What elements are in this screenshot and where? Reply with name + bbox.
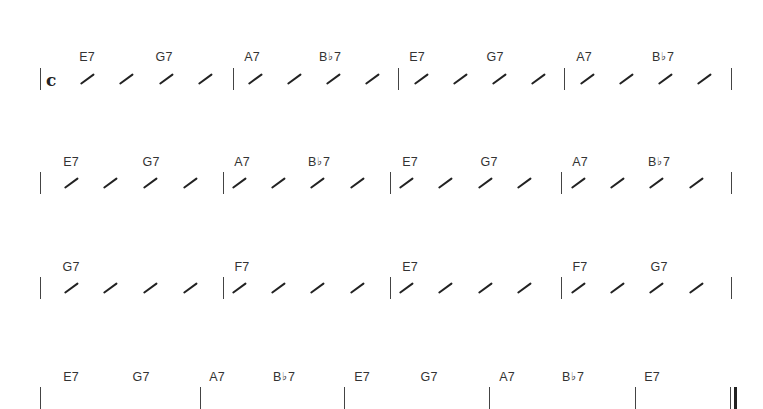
barline: [731, 277, 732, 299]
chord-root: E: [644, 370, 653, 384]
barline: [731, 172, 732, 194]
barline: [40, 68, 41, 90]
chord-quality: 7: [334, 50, 341, 64]
chord-root: A: [576, 50, 585, 64]
chord-root: A: [244, 50, 253, 64]
chord-symbol: G7: [486, 50, 503, 64]
slash-beat-icon: [365, 73, 380, 85]
chord-symbol: B♭7: [652, 50, 674, 64]
chord-quality: 7: [411, 155, 418, 169]
chord-root: B: [652, 50, 661, 64]
chord-symbol: B♭7: [273, 370, 295, 384]
chord-quality: 7: [508, 370, 515, 384]
flat-accidental: ♭: [661, 50, 666, 63]
chord-symbol: G7: [650, 260, 667, 274]
slash-beat-icon: [119, 73, 134, 85]
chord-symbol: F7: [235, 260, 250, 274]
slash-beat-icon: [517, 177, 532, 189]
chord-quality: 7: [663, 155, 670, 169]
chord-root: E: [402, 260, 411, 274]
slash-beat-icon: [232, 282, 247, 294]
slash-beat-icon: [310, 282, 325, 294]
chord-quality: 7: [142, 370, 149, 384]
flat-accidental: ♭: [282, 370, 287, 383]
final-barline-thick: [734, 387, 737, 409]
slash-beat-icon: [159, 73, 174, 85]
slash-beat-icon: [287, 73, 302, 85]
slash-beat-icon: [399, 177, 414, 189]
slash-beat-icon: [571, 177, 586, 189]
slash-beat-icon: [619, 73, 634, 85]
slash-beat-icon: [326, 73, 341, 85]
chord-root: F: [235, 260, 243, 274]
barline: [561, 172, 562, 194]
slash-beat-icon: [183, 177, 198, 189]
chord-quality: 7: [667, 50, 674, 64]
chord-quality: 7: [418, 50, 425, 64]
barline: [344, 387, 345, 409]
chord-symbol: E7: [409, 50, 425, 64]
chord-quality: 7: [243, 155, 250, 169]
chord-root: G: [62, 260, 72, 274]
slash-beat-icon: [350, 177, 365, 189]
chord-quality: 7: [152, 155, 159, 169]
chord-symbol: G7: [142, 155, 159, 169]
chord-quality: 7: [490, 155, 497, 169]
chord-symbol: B♭7: [648, 155, 670, 169]
chord-symbol: E7: [79, 50, 95, 64]
barline: [635, 387, 636, 409]
slash-beat-icon: [610, 177, 625, 189]
chord-root: G: [132, 370, 142, 384]
slash-beat-icon: [478, 177, 493, 189]
chord-quality: 7: [577, 370, 584, 384]
chord-quality: 7: [88, 50, 95, 64]
slash-beat-icon: [399, 282, 414, 294]
barline: [489, 387, 490, 409]
chord-root: A: [499, 370, 508, 384]
slash-beat-icon: [103, 282, 118, 294]
barline: [223, 172, 224, 194]
chord-symbol: B♭7: [562, 370, 584, 384]
chord-root: A: [572, 155, 581, 169]
chord-symbol: E7: [354, 370, 370, 384]
barline: [390, 277, 391, 299]
chord-root: E: [63, 155, 72, 169]
slash-beat-icon: [143, 282, 158, 294]
barline: [390, 172, 391, 194]
chord-symbol: E7: [644, 370, 660, 384]
chord-quality: 7: [218, 370, 225, 384]
chord-quality: 7: [242, 260, 249, 274]
slash-beat-icon: [183, 282, 198, 294]
chord-symbol: A7: [572, 155, 588, 169]
slash-beat-icon: [689, 177, 704, 189]
chord-symbol: A7: [576, 50, 592, 64]
chord-root: A: [209, 370, 218, 384]
chord-root: B: [308, 155, 317, 169]
slash-beat-icon: [571, 282, 586, 294]
barline: [40, 277, 41, 299]
chord-root: B: [562, 370, 571, 384]
slash-beat-icon: [248, 73, 263, 85]
slash-beat-icon: [143, 177, 158, 189]
slash-beat-icon: [350, 282, 365, 294]
final-barline: [730, 387, 731, 409]
slash-beat-icon: [478, 282, 493, 294]
chord-root: B: [319, 50, 328, 64]
chord-quality: 7: [496, 50, 503, 64]
chord-quality: 7: [585, 50, 592, 64]
chord-root: A: [234, 155, 243, 169]
chord-root: E: [79, 50, 88, 64]
chord-quality: 7: [72, 260, 79, 274]
slash-beat-icon: [64, 177, 79, 189]
slash-beat-icon: [697, 73, 712, 85]
slash-beat-icon: [271, 282, 286, 294]
flat-accidental: ♭: [657, 155, 662, 168]
barline: [223, 277, 224, 299]
chord-quality: 7: [581, 155, 588, 169]
slash-beat-icon: [64, 282, 79, 294]
slash-beat-icon: [310, 177, 325, 189]
chord-root: G: [155, 50, 165, 64]
chord-quality: 7: [288, 370, 295, 384]
time-signature-common: c: [46, 70, 56, 90]
